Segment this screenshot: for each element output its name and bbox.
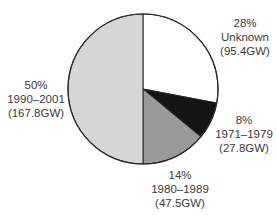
slice-value: (47.5GW) (147, 196, 213, 210)
slice-percent: 8% (212, 113, 276, 127)
slice-percent: 28% (214, 16, 276, 30)
slice-label-unknown: 28% Unknown (95.4GW) (214, 16, 276, 58)
pie-slice-unknown (143, 14, 218, 103)
pie-slices (68, 14, 218, 164)
slice-value: (27.8GW) (212, 141, 276, 155)
slice-category: 1980–1989 (147, 182, 213, 196)
slice-category: 1971–1979 (212, 127, 276, 141)
slice-value: (95.4GW) (214, 44, 276, 58)
slice-category: Unknown (214, 30, 276, 44)
pie-slice-1990-2001 (68, 14, 143, 164)
slice-label-1971-1979: 8% 1971–1979 (27.8GW) (212, 113, 276, 155)
slice-value: (167.8GW) (2, 106, 70, 120)
slice-label-1990-2001: 50% 1990–2001 (167.8GW) (2, 78, 70, 120)
slice-percent: 50% (2, 78, 70, 92)
slice-percent: 14% (147, 168, 213, 182)
slice-label-1980-1989: 14% 1980–1989 (47.5GW) (147, 168, 213, 210)
slice-category: 1990–2001 (2, 92, 70, 106)
